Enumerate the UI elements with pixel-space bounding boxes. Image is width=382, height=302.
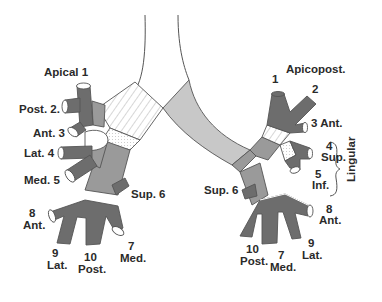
label-inferior-lingular: Inf. [312,179,329,191]
label-lateral-4: Lat. 4 [24,147,55,159]
label-apicoposterior: Apicopost. [286,63,345,75]
label-medial-5: Med. 5 [24,174,60,186]
label-posterior-2: Post. 2. [19,103,60,115]
lingula [280,141,313,175]
label-medial-basal: Med. [270,261,296,273]
label-medial-basal-num: 7 [128,240,134,252]
label-anterior-3: Ant. 3 [33,127,65,139]
label-posterior-num: 2 [312,83,318,95]
label-lateral-basal-num: 9 [308,237,314,249]
label-anterior-3: 3 Ant. [311,117,343,129]
label-medial-basal-num: 7 [278,249,284,261]
label-posterior-basal-num: 10 [84,251,97,263]
label-anterior-basal-num: 8 [29,207,36,219]
label-superior-6: Sup. 6 [131,188,166,200]
label-anterior-basal: Ant. [23,219,45,231]
left-upper-division [267,92,316,134]
label-superior-6: Sup. 6 [204,184,239,196]
label-superior-lingular: Sup. [321,151,346,163]
bronchial-tree-diagram: Apical 1 Post. 2. Ant. 3 Lat. 4 Med. 5 S… [0,0,382,302]
label-lateral-basal: Lat. [47,259,67,271]
label-apical-num: 1 [272,73,279,85]
label-posterior-basal-num: 10 [246,243,259,255]
label-medial-basal: Med. [120,252,146,264]
label-posterior-basal: Post. [78,263,106,275]
label-apical-1: Apical 1 [44,66,89,78]
left-lower-lobe [240,184,313,244]
label-lateral-basal-num: 9 [52,247,58,259]
label-lingular-group: Lingular [345,136,357,182]
label-anterior-basal: Ant. [319,214,341,226]
label-posterior-basal: Post. [240,255,268,267]
label-lateral-basal: Lat. [302,249,322,261]
